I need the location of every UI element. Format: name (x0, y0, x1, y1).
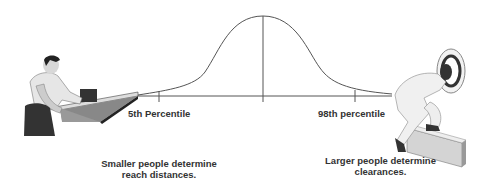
left-person-figure (24, 56, 138, 137)
left-caption-line2: reach distances. (84, 169, 234, 180)
left-caption-line1: Smaller people determine (84, 158, 234, 169)
right-caption-line1: Larger people determine (318, 155, 443, 166)
right-caption-line2: clearances. (318, 166, 443, 177)
bell-curve (138, 16, 392, 95)
5th-percentile-label: 5th Percentile (128, 108, 190, 119)
right-caption: Larger people determine clearances. (318, 155, 443, 177)
right-person-figure (395, 49, 466, 167)
left-caption: Smaller people determine reach distances… (84, 158, 234, 180)
98th-percentile-label: 98th percentile (318, 108, 385, 119)
